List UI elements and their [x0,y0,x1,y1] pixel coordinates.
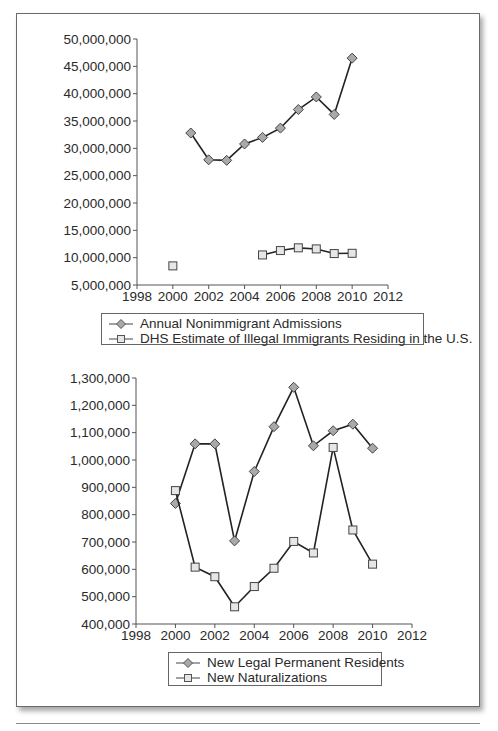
y-tick-label: 1,300,000 [70,371,130,386]
diamond-marker [249,466,259,476]
square-marker-icon [175,672,201,684]
square-marker [349,526,357,534]
y-tick-label: 700,000 [81,535,130,550]
square-marker [231,603,239,611]
legend-label: New Naturalizations [207,670,327,685]
chart-lpr-naturalizations: 400,000500,000600,000700,000800,000900,0… [0,0,498,650]
x-tick-label: 2000 [160,628,190,643]
x-tick-label: 1998 [121,628,151,643]
diamond-marker-icon [175,657,201,669]
square-marker [270,564,278,572]
square-marker [329,443,337,451]
x-tick-label: 2002 [200,628,230,643]
legend-item-naturalizations: New Naturalizations [175,670,375,685]
legend-label: New Legal Permanent Residents [207,655,404,670]
square-marker [250,583,258,591]
legend-item-lpr: New Legal Permanent Residents [175,655,375,670]
square-marker [290,537,298,545]
x-tick-label: 2006 [279,628,309,643]
square-marker [211,573,219,581]
square-marker [309,549,317,557]
y-tick-label: 800,000 [81,507,130,522]
y-tick-label: 500,000 [81,589,130,604]
series-square [171,443,376,610]
x-tick-label: 2012 [397,628,427,643]
page-rule [16,723,480,724]
square-marker [369,560,377,568]
diamond-marker [269,422,279,432]
x-tick-label: 2004 [239,628,270,643]
y-tick-label: 1,200,000 [70,398,130,413]
y-tick-label: 900,000 [81,480,130,495]
square-marker [191,563,199,571]
diamond-marker [190,439,200,449]
series-diamond [170,382,377,546]
legend-bottom: New Legal Permanent Residents New Natura… [168,652,382,686]
diamond-marker [230,536,240,546]
y-tick-label: 1,000,000 [70,453,130,468]
x-tick-label: 2010 [358,628,388,643]
diamond-marker [210,439,220,449]
diamond-marker [289,382,299,392]
y-tick-label: 1,100,000 [70,425,130,440]
x-tick-label: 2008 [318,628,348,643]
y-tick-label: 600,000 [81,562,130,577]
square-marker [171,487,179,495]
